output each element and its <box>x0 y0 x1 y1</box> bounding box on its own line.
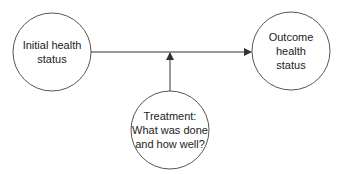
treatment-line-1: Treatment: <box>144 109 197 123</box>
initial-health-label: Initial health status <box>13 13 91 91</box>
initial-health-line-2: status <box>37 52 66 66</box>
initial-health-line-1: Initial health <box>23 38 82 52</box>
outcome-health-line-3: status <box>276 58 305 72</box>
treatment-label: Treatment: What was done and how well? <box>131 91 209 169</box>
outcome-health-label: Outcome health status <box>252 12 330 90</box>
outcome-health-line-2: health <box>276 44 306 58</box>
outcome-health-line-1: Outcome <box>269 30 314 44</box>
treatment-line-2: What was done <box>132 123 208 137</box>
treatment-line-3: and how well? <box>135 137 205 151</box>
